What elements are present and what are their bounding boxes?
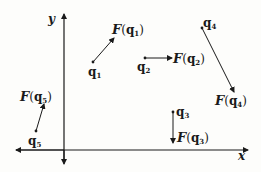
point-label-q2: q2 <box>137 60 150 75</box>
force-label-q5: F(q5) <box>19 89 52 105</box>
vector-q5: F(q5) q5 <box>19 89 52 149</box>
force-label-q3: F(q3) <box>176 130 209 146</box>
force-label-q1: F(q1) <box>111 22 144 38</box>
point-label-q4: q4 <box>203 16 216 31</box>
vector-q1: F(q1) q1 <box>88 22 144 80</box>
point-label-q3: q3 <box>176 105 189 120</box>
x-axis-label: x <box>237 149 246 163</box>
vector-q3: q3 F(q3) <box>172 105 209 146</box>
y-axis-label: y <box>47 12 56 26</box>
vector-q2: F(q2) q2 <box>137 51 205 75</box>
force-arrow-q1 <box>93 38 114 62</box>
diagram-canvas: y x F(q1) q1 F(q2) q2 <box>0 0 261 172</box>
point-label-q1: q1 <box>88 65 101 80</box>
force-label-q2: F(q2) <box>172 51 205 67</box>
vector-field-diagram: y x F(q1) q1 F(q2) q2 <box>0 0 261 172</box>
force-arrow-q5 <box>36 104 44 131</box>
point-label-q5: q5 <box>28 134 41 149</box>
force-label-q4: F(q4) <box>214 93 247 109</box>
force-arrow-q4 <box>202 28 234 92</box>
vector-q4: q4 F(q4) <box>201 16 247 109</box>
